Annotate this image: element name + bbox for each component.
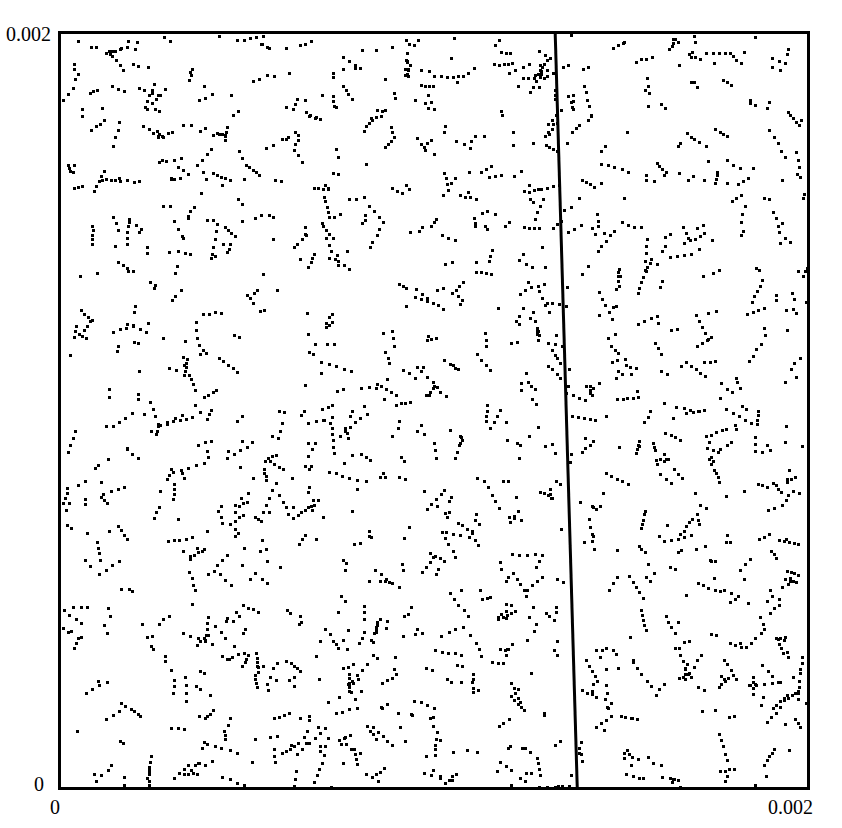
x-axis-min-tick-label: 0	[50, 797, 60, 817]
plot-frame	[58, 31, 810, 790]
scatter-points-layer	[61, 34, 807, 787]
x-axis-max-tick-label: 0.002	[768, 797, 813, 817]
y-axis-min-tick-label: 0	[34, 774, 44, 794]
y-axis-max-tick-label: 0.002	[6, 24, 51, 44]
scatter-plot-figure: 0.002 0 0 0.002	[0, 0, 842, 828]
